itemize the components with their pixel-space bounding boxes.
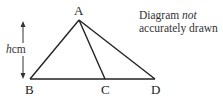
point-label-c: C (101, 83, 110, 96)
accuracy-note: Diagram not accurately drawn (139, 9, 218, 35)
note-line-2: accurately drawn (139, 22, 218, 35)
segment-ab (30, 20, 79, 79)
note-line-1: Diagram not (139, 9, 218, 22)
height-unit: cm (12, 43, 26, 55)
point-label-a: A (74, 4, 83, 17)
triangle-diagram: A B C D hcm Diagram not accurately drawn (0, 0, 223, 98)
note-emphasis: not (182, 9, 197, 21)
note-prefix: Diagram (139, 9, 182, 21)
segment-ac (79, 20, 105, 79)
height-label: hcm (5, 43, 27, 56)
point-label-d: D (151, 83, 160, 96)
point-label-b: B (25, 83, 34, 96)
